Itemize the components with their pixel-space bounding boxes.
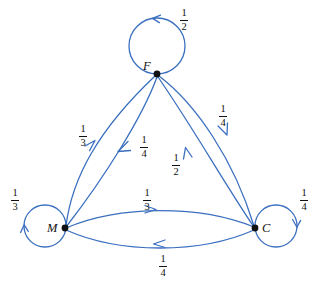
edge-M-to-F-label: 1 3 — [75, 124, 91, 148]
edge-C-to-M — [66, 230, 254, 248]
edge-F-to-C-label: 1 4 — [215, 104, 231, 128]
edge-C-to-F-arrowhead — [184, 148, 193, 160]
node-M-dot — [62, 225, 69, 232]
edge-F-to-C-label-denominator: 4 — [215, 117, 231, 128]
self-loop-M-circle — [24, 205, 66, 247]
state-diagram: F M C 1 2 1 3 1 4 1 3 1 4 1 — [0, 0, 321, 283]
edge-C-to-M-label-denominator: 4 — [155, 267, 171, 278]
edge-C-to-M-label-numerator: 1 — [155, 254, 171, 265]
node-C-dot — [252, 225, 259, 232]
self-loop-C-label: 1 4 — [296, 188, 312, 212]
edge-F-to-M-label-denominator: 4 — [136, 148, 152, 159]
edge-C-to-F-label: 1 2 — [168, 153, 184, 177]
self-loop-F-label-denominator: 2 — [176, 21, 192, 32]
self-loop-M-label-denominator: 3 — [7, 201, 23, 212]
edge-C-to-M-arrowhead — [154, 240, 166, 248]
self-loop-F-label: 1 2 — [176, 8, 192, 32]
node-F[interactable]: F — [142, 59, 160, 77]
self-loop-F-label-numerator: 1 — [176, 8, 192, 19]
self-loop-C-label-denominator: 4 — [296, 201, 312, 212]
edge-C-to-M-label: 1 4 — [155, 254, 171, 278]
edge-M-to-C-line — [66, 211, 254, 228]
diagram-canvas: F M C — [0, 0, 321, 283]
edge-M-to-C-label: 1 3 — [139, 188, 155, 212]
node-F-label: F — [142, 59, 151, 73]
self-loop-M — [21, 205, 66, 247]
edge-M-to-C-label-numerator: 1 — [139, 188, 155, 199]
edge-F-to-M-label: 1 4 — [136, 135, 152, 159]
edge-M-to-C — [66, 206, 254, 229]
self-loop-F-arrowhead — [153, 15, 161, 22]
edge-M-to-C-label-denominator: 3 — [139, 201, 155, 212]
node-C-label: C — [262, 221, 271, 235]
node-F-dot — [154, 71, 161, 78]
self-loop-C-label-numerator: 1 — [296, 188, 312, 199]
node-M-label: M — [46, 221, 58, 235]
edge-M-to-F-label-numerator: 1 — [75, 124, 91, 135]
edge-C-to-F-label-denominator: 2 — [168, 166, 184, 177]
self-loop-M-label: 1 3 — [7, 188, 23, 212]
edge-M-to-F-label-denominator: 3 — [75, 137, 91, 148]
edge-F-to-C-label-numerator: 1 — [215, 104, 231, 115]
edge-F-to-M-label-numerator: 1 — [136, 135, 152, 146]
self-loop-M-label-numerator: 1 — [7, 188, 23, 199]
edge-C-to-F-label-numerator: 1 — [168, 153, 184, 164]
node-C[interactable]: C — [252, 221, 271, 235]
